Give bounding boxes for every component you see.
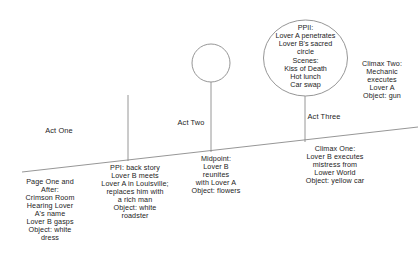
beat-climax-two: Climax Two: Mechanic executes Lover A Ob… xyxy=(349,60,415,100)
diagram-canvas: PPII: Lover A penetrates Lover B's sacre… xyxy=(0,0,418,261)
act-one-label: Act One xyxy=(24,127,94,135)
act-three-label: Act Three xyxy=(291,113,357,121)
beat-ppi: PPI: back story Lover B meets Lover A in… xyxy=(85,164,185,220)
ppii-node-label: PPII: Lover A penetrates Lover B's sacre… xyxy=(258,24,353,89)
beat-climax-one: Climax One: Lover B executes mistress fr… xyxy=(287,145,383,185)
midpoint-circle xyxy=(192,44,230,82)
beat-midpoint: Midpoint: Lover B reunites with Lover A … xyxy=(175,155,257,195)
beat-page-one-and-after: Page One and After: Crimson Room Hearing… xyxy=(8,178,92,243)
act-two-label: Act Two xyxy=(162,119,220,127)
